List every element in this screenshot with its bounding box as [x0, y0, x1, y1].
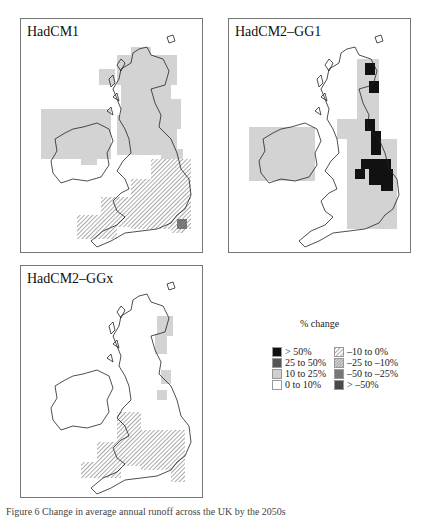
legend: % change > 50% 25 to 50% 10 to 25% 0 to … [262, 318, 412, 398]
legend-item: 25 to 50% [272, 357, 326, 368]
legend-item: –10 to 0% [334, 346, 398, 357]
map-panel-hadcm2-ggx: HadCM2–GGx [20, 265, 203, 498]
legend-item: > –50% [334, 379, 398, 390]
legend-item: 0 to 10% [272, 379, 326, 390]
legend-positive-column: > 50% 25 to 50% 10 to 25% 0 to 10% [272, 346, 326, 390]
swatch-white [272, 380, 282, 390]
legend-negative-column: –10 to 0% –25 to –10% –50 to –25% > –50% [334, 346, 398, 390]
panel-title: HadCM1 [27, 24, 79, 40]
uk-runoff-map [229, 19, 411, 253]
swatch-light-hatch [334, 347, 344, 357]
swatch-dark-gray [272, 358, 282, 368]
map-panel-hadcm2-gg1: HadCM2–GG1 [228, 18, 411, 253]
swatch-dark-hatch [334, 369, 344, 379]
legend-title: % change [300, 318, 339, 329]
legend-item: –50 to –25% [334, 368, 398, 379]
legend-item: > 50% [272, 346, 326, 357]
panel-title: HadCM2–GG1 [235, 24, 321, 40]
uk-runoff-map [21, 266, 203, 498]
map-panel-hadcm1: HadCM1 [20, 18, 203, 253]
figure-caption: Figure 6 Change in average annual runoff… [6, 506, 286, 517]
swatch-light-gray [272, 369, 282, 379]
swatch-dense-hatch [334, 358, 344, 368]
panel-title: HadCM2–GGx [27, 271, 113, 287]
uk-runoff-map [21, 19, 203, 253]
legend-item: 10 to 25% [272, 368, 326, 379]
swatch-darkest-hatch [334, 380, 344, 390]
legend-item: –25 to –10% [334, 357, 398, 368]
swatch-black [272, 347, 282, 357]
